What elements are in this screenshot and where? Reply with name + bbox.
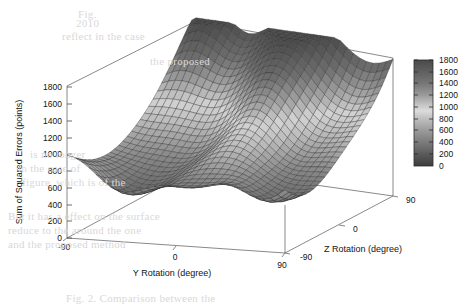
z-tick-1400: 1400: [43, 116, 62, 126]
cb-tick-0: 0: [439, 161, 444, 171]
cb-tick-200: 200: [439, 149, 453, 159]
ghost-text: reflect in the case: [62, 30, 145, 42]
y-axis-label: Z Rotation (degree): [324, 244, 402, 254]
cb-tick-400: 400: [439, 137, 453, 147]
colorbar-tick-labels: 1800 1600 1400 1200 1000 800 600 400 200…: [439, 55, 458, 171]
cb-tick-600: 600: [439, 125, 453, 135]
ghost-text: 2010: [76, 17, 99, 29]
cb-tick-1000: 1000: [439, 102, 458, 112]
ghost-text: figure, which is of the: [22, 176, 126, 188]
ghost-text: reduce to the around the one: [8, 224, 141, 236]
z-tick-1800: 1800: [43, 82, 62, 92]
ghost-text: is no longer: [30, 148, 86, 160]
z-tick-400: 400: [48, 200, 62, 210]
y-tick-0: 0: [353, 224, 358, 234]
z-tick-1200: 1200: [43, 133, 62, 143]
cb-tick-1200: 1200: [439, 90, 458, 100]
ghost-text: in the case of: [18, 162, 81, 174]
cb-tick-1800: 1800: [439, 55, 458, 65]
cb-tick-1600: 1600: [439, 67, 458, 77]
x-tick-0: 0: [173, 252, 178, 262]
x-axis-label: Y Rotation (degree): [133, 268, 211, 278]
x-tick-90: 90: [277, 260, 287, 270]
ghost-text: Fig. 2. Comparison between the: [66, 292, 216, 304]
y-tick-90: 90: [406, 195, 416, 205]
ghost-text: and the proposed method: [8, 238, 126, 250]
surface-mesh: [67, 18, 393, 202]
colorbar: 1800 1600 1400 1200 1000 800 600 400 200…: [414, 55, 458, 171]
colorbar-gradient: [414, 60, 433, 166]
cb-tick-1400: 1400: [439, 78, 458, 88]
cb-tick-800: 800: [439, 114, 453, 124]
y-tick-minus90: -90: [300, 252, 313, 262]
ghost-text: But it has a effect on the surface: [8, 210, 160, 222]
z-tick-1600: 1600: [43, 99, 62, 109]
ghost-text: the proposed: [150, 55, 210, 67]
